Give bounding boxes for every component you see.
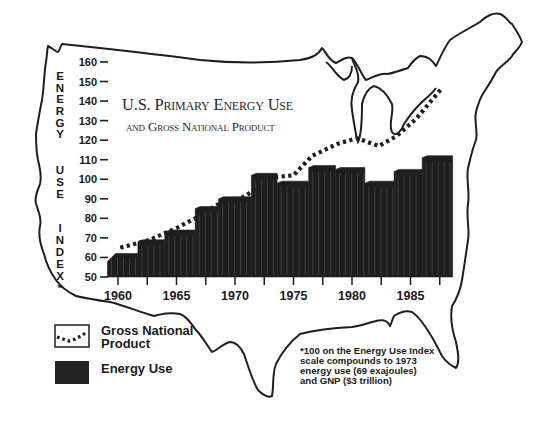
y-tick-label: 130 xyxy=(79,115,97,127)
y-axis-title-letter: E xyxy=(56,93,64,105)
y-axis-title-letter: Y xyxy=(56,128,64,140)
x-tick-label: 1965 xyxy=(163,289,191,303)
chart-title: U.S. Primary Energy Use xyxy=(122,95,293,114)
x-tick-label: 1970 xyxy=(221,289,249,303)
y-axis-title-letter: N xyxy=(56,234,64,246)
legend-item-energy: Energy Use xyxy=(55,361,173,384)
footnote: *100 on the Energy Use Index scale compo… xyxy=(300,345,435,386)
legend-energy-label: Energy Use xyxy=(101,361,173,376)
y-tick-label: 50 xyxy=(85,271,97,283)
x-tick-label: 1975 xyxy=(280,289,308,303)
x-axis-ticks: 196019651970197519801985 xyxy=(104,277,440,303)
gnp-swatch xyxy=(55,325,89,347)
energy-bar xyxy=(422,156,452,277)
energy-gnp-chart: U.S. Primary Energy Use and Gross Nation… xyxy=(0,0,538,424)
y-tick-label: 90 xyxy=(85,193,97,205)
legend-item-gnp: Gross National Product xyxy=(55,323,193,351)
x-tick-label: 1985 xyxy=(397,289,425,303)
y-tick-label: 60 xyxy=(85,251,97,263)
legend: Gross National Product Energy Use xyxy=(55,323,193,384)
chart-subtitle: and Gross National Product xyxy=(126,119,275,134)
great-lakes-outline xyxy=(351,58,436,142)
energy-bar xyxy=(165,230,195,277)
y-axis-title-letter: R xyxy=(56,105,65,117)
y-axis-title-letter: U xyxy=(56,164,64,176)
energy-bar xyxy=(195,207,218,277)
y-axis-title-letter: S xyxy=(56,176,64,188)
lake-superior-outline xyxy=(326,62,352,80)
y-axis-ticks: 5060708090100110120130140150160 xyxy=(79,56,108,283)
y-tick-label: 120 xyxy=(79,134,97,146)
y-axis-title-letter: D xyxy=(56,246,64,258)
y-tick-label: 80 xyxy=(85,212,97,224)
x-tick-label: 1980 xyxy=(338,289,366,303)
y-tick-label: 160 xyxy=(79,56,97,68)
x-tick-label: 1960 xyxy=(104,289,132,303)
energy-bar xyxy=(336,167,365,277)
y-tick-label: 100 xyxy=(79,173,97,185)
energy-use-bars xyxy=(107,156,452,277)
legend-gnp-label-line2: Product xyxy=(101,336,151,351)
y-axis-title-letter: E xyxy=(56,188,64,200)
energy-bar xyxy=(107,254,137,277)
y-tick-label: 150 xyxy=(79,76,97,88)
y-axis-title-letter: E xyxy=(56,258,64,270)
y-tick-label: 70 xyxy=(85,232,97,244)
y-axis-title-letter: * xyxy=(58,282,63,294)
y-axis-title-letter: I xyxy=(58,222,61,234)
y-axis-title-letter: X xyxy=(56,270,64,282)
energy-bar xyxy=(365,181,394,277)
y-axis-title-letter: E xyxy=(56,70,64,82)
y-tick-label: 110 xyxy=(79,154,97,166)
y-axis-title: ENERGYUSEINDEX* xyxy=(56,70,65,294)
y-tick-label: 140 xyxy=(79,95,97,107)
footnote-line-4: and GNP ($3 trillion) xyxy=(300,375,392,386)
energy-swatch xyxy=(55,361,89,384)
